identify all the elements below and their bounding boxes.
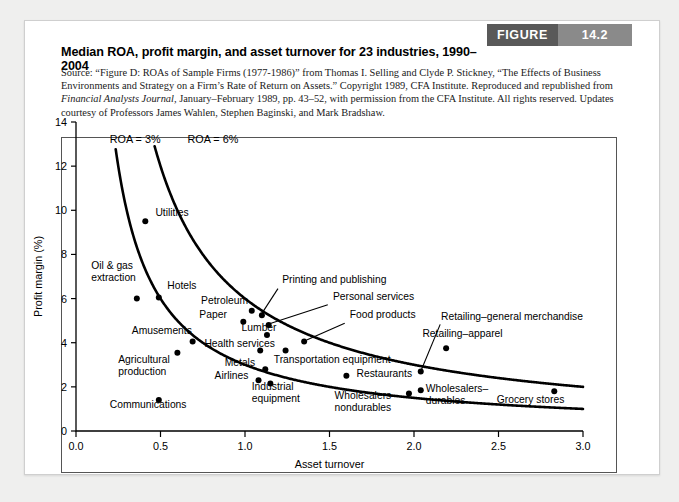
figure-card: Median ROA, profit margin, and asset tur… [24,20,660,475]
source-line-3a: republished from [542,80,613,91]
source-journal-name: Financial Analysts Journal, [61,93,177,104]
page-root: Median ROA, profit margin, and asset tur… [0,0,679,502]
plot-frame [61,137,617,473]
source-note: Source: “Figure D: ROAs of Sample Firms … [61,66,617,119]
figure-badge: FIGURE 14.2 [487,24,632,46]
figure-badge-number: 14.2 [558,24,632,46]
figure-badge-word: FIGURE [487,24,558,46]
source-line-3b: January–February 1989, pp. 43–52, with p… [177,93,511,104]
source-line-1: Source: “Figure D: ROAs of Sample Firms … [61,67,561,78]
